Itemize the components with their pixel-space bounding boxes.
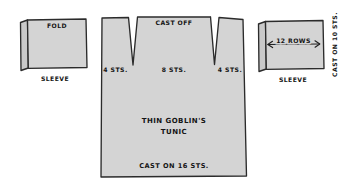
tunic-body-group: CAST OFF 4 STS. 8 STS. 4 STS. THIN GOBLI… bbox=[101, 17, 247, 177]
sleeve-left-caption: SLEEVE bbox=[41, 75, 69, 82]
neck-sts-label: 8 STS. bbox=[162, 66, 186, 73]
rows-label: 12 ROWS bbox=[276, 37, 311, 44]
tunic-title-line-2: TUNIC bbox=[161, 128, 187, 136]
tunic-title-line-1: THIN GOBLIN'S bbox=[142, 117, 207, 125]
tunic-body-panel bbox=[101, 17, 247, 177]
sleeve-left-group: FOLD SLEEVE bbox=[21, 19, 88, 82]
sleeve-left-fold-label: FOLD bbox=[47, 22, 67, 29]
sleeve-right-group: 12 ROWS SLEEVE CAST ON 10 STS. bbox=[259, 12, 338, 82]
cast-off-label: CAST OFF bbox=[156, 19, 193, 26]
left-shoulder-sts-label: 4 STS. bbox=[103, 66, 127, 73]
cast-on-sleeve-label: CAST ON 10 STS. bbox=[331, 12, 338, 77]
right-shoulder-sts-label: 4 STS. bbox=[218, 66, 242, 73]
cast-on-body-label: CAST ON 16 STS. bbox=[139, 162, 209, 170]
sleeve-right-caption: SLEEVE bbox=[279, 76, 307, 83]
knitting-pattern-diagram: FOLD SLEEVE CAST OFF 4 STS. 8 STS. 4 STS… bbox=[0, 0, 352, 195]
